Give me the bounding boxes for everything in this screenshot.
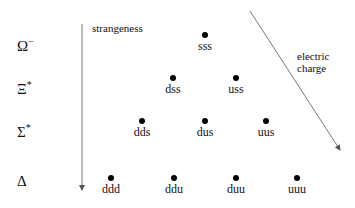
row-label-sigma: Σ* [17, 122, 31, 141]
axes-arrows [0, 0, 355, 208]
row-label-xi: Ξ* [17, 79, 32, 98]
particle-label: dds [134, 125, 151, 140]
particle-label: duu [227, 182, 245, 197]
row-superscript: * [26, 122, 31, 133]
particle-dot [170, 75, 176, 81]
particle-dot [294, 175, 300, 181]
particle-dot [108, 175, 114, 181]
particle-dot [233, 75, 239, 81]
strangeness-label: strangeness [92, 22, 143, 34]
particle-dot [139, 118, 145, 124]
charge-label-line1: electric [297, 50, 329, 62]
particle-label: uss [228, 82, 243, 97]
particle-dot [233, 175, 239, 181]
row-symbol: Σ [17, 124, 26, 140]
particle-label: dss [165, 82, 180, 97]
row-symbol: Δ [17, 173, 27, 189]
electric-charge-label: electric charge [297, 50, 329, 74]
particle-dot [202, 118, 208, 124]
charge-label-line2: charge [297, 62, 329, 74]
particle-label: ddd [102, 182, 120, 197]
particle-label: uus [258, 125, 275, 140]
particle-label: ddu [165, 182, 183, 197]
particle-label: sss [198, 39, 212, 54]
row-label-delta: Δ [17, 171, 27, 190]
particle-dot [263, 118, 269, 124]
particle-dot [171, 175, 177, 181]
row-symbol: Ξ [17, 81, 27, 97]
row-superscript: − [28, 36, 34, 47]
particle-label: dus [197, 125, 214, 140]
row-symbol: Ω [17, 38, 28, 54]
row-superscript: * [27, 79, 32, 90]
particle-dot [202, 32, 208, 38]
particle-label: uuu [288, 182, 306, 197]
row-label-omega: Ω− [17, 36, 34, 55]
